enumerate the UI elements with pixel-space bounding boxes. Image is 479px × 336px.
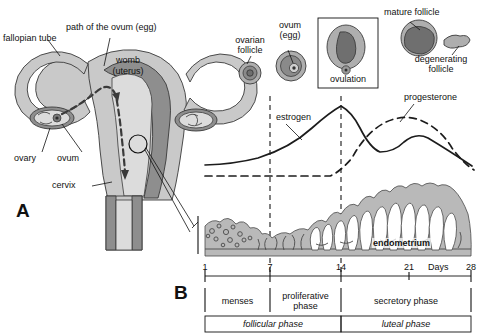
phase-menses: menses <box>205 296 270 307</box>
label-womb-line2: (uterus) <box>100 66 156 77</box>
menstrual-cycle-figure: fallopian tube path of the ovum (egg) wo… <box>0 0 479 336</box>
axis-tick-1: 1 <box>197 262 213 273</box>
label-ovulation: ovulation <box>318 74 378 85</box>
phase-proliferative-line1: proliferative <box>270 291 341 302</box>
phase-follicular: follicular phase <box>205 319 341 330</box>
phase-secretory: secretory phase <box>341 296 471 307</box>
axis-tick-7: 7 <box>262 262 278 273</box>
label-progesterone: progesterone <box>404 92 457 103</box>
label-degenerating-follicle-line2: follicle <box>404 64 478 75</box>
axis-tick-28: 28 <box>463 262 479 273</box>
label-ovum-egg-line2: (egg) <box>268 30 312 41</box>
label-womb-line1: womb <box>100 55 156 66</box>
label-degenerating-follicle-line1: degenerating <box>404 54 478 65</box>
label-fallopian-tube: fallopian tube <box>3 33 57 44</box>
label-endometrium: endometrium <box>372 238 431 248</box>
phase-luteal: luteal phase <box>341 319 471 330</box>
label-ovum: ovum <box>57 153 79 164</box>
label-cervix: cervix <box>52 180 76 191</box>
label-ovum-egg-line1: ovum <box>268 20 312 31</box>
label-path-of-ovum: path of the ovum (egg) <box>66 22 157 33</box>
axis-tick-14: 14 <box>333 262 349 273</box>
label-ovary: ovary <box>14 153 36 164</box>
panel-a-label: A <box>16 206 30 217</box>
label-estrogen: estrogen <box>276 112 311 123</box>
phase-proliferative-line2: phase <box>270 301 341 312</box>
axis-days-label: Days <box>428 262 449 273</box>
panel-b-label: B <box>174 288 188 299</box>
axis-tick-21: 21 <box>401 262 417 273</box>
label-mature-follicle: mature follicle <box>384 7 440 18</box>
label-ovarian-follicle-line2: follicle <box>222 45 278 56</box>
